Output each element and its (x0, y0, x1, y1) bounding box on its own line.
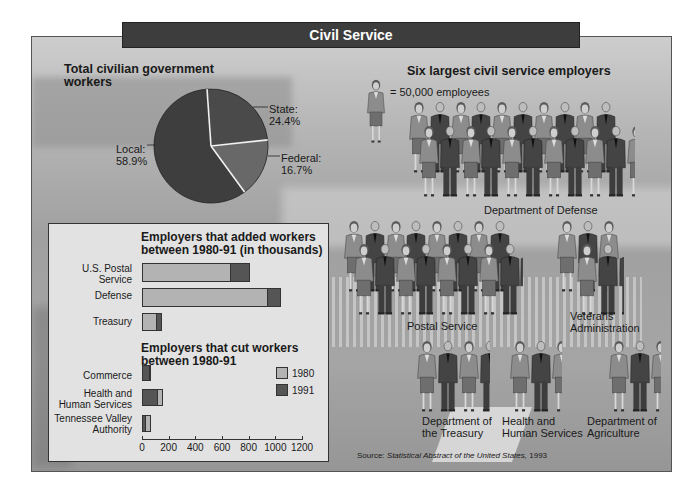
man-figure-icon (530, 340, 552, 412)
woman-figure-icon (395, 243, 417, 315)
man-figure-icon (629, 340, 651, 412)
legend-label-1991: 1991 (292, 385, 314, 396)
tva-bar-inner (142, 415, 146, 432)
treasury-label-line1: Department of (422, 415, 492, 427)
woman-figure-icon (543, 125, 565, 197)
man-figure-icon (437, 340, 459, 412)
usps-label-line1: U.S. Postal (52, 263, 132, 274)
group-label-defense: Department of Defense (484, 204, 598, 216)
agriculture-label-line1: Department of (587, 415, 657, 427)
x-tick-label: 600 (214, 442, 231, 453)
category-label-defense: Defense (52, 290, 132, 301)
x-tick (142, 436, 143, 440)
hhs-label-line1: Health and (502, 415, 583, 427)
man-figure-icon (597, 243, 619, 315)
treasury-bar-inner (142, 313, 157, 331)
x-tick-label: 400 (187, 442, 204, 453)
source-year: 1993 (527, 451, 547, 460)
man-figure-icon (457, 243, 479, 315)
man-figure-icon (415, 243, 437, 315)
commerce-bar-label: Commerce (52, 370, 132, 381)
veterans-label-line2: Administration (570, 322, 640, 334)
woman-figure-icon (626, 125, 635, 197)
group-label-postal: Postal Service (407, 320, 477, 332)
man-figure-icon (480, 125, 502, 197)
man-figure-icon (564, 125, 586, 197)
woman-figure-icon (650, 340, 661, 412)
hhs-label-line2: Human Services (502, 427, 583, 439)
man-figure-icon (439, 125, 461, 197)
man-figure-icon (605, 125, 627, 197)
woman-figure-icon (478, 243, 500, 315)
hhs-bar-label-line2: Human Services (52, 399, 132, 410)
man-figure-icon (519, 243, 523, 315)
defense-label: Department of Defense (484, 204, 598, 216)
group-label-hhs: Health and Human Services (502, 415, 583, 439)
hhs-bar-label-line1: Health and (52, 388, 132, 399)
tva-bar-label-line2: Authority (52, 424, 132, 435)
added-workers-title: Employers that added workers between 198… (141, 231, 322, 256)
man-figure-icon (479, 340, 490, 412)
woman-figure-icon (436, 243, 458, 315)
cut-workers-title: Employers that cut workers between 1980-… (141, 342, 298, 367)
commerce-bar-inner (142, 365, 150, 381)
man-figure-icon (374, 243, 396, 315)
woman-figure-icon (556, 220, 578, 292)
legend-swatch-1980 (276, 367, 288, 379)
x-tick (249, 436, 250, 440)
defense-bar-label: Defense (52, 290, 132, 301)
group-label-treasury: Department of the Treasury (422, 415, 492, 439)
legend-label-1980: 1980 (292, 368, 314, 379)
x-tick-label: 0 (139, 442, 145, 453)
treasury-bar-label: Treasury (52, 316, 132, 327)
x-tick (169, 436, 170, 440)
veterans-label-line1: Veterans (570, 310, 640, 322)
woman-figure-icon (501, 125, 523, 197)
woman-figure-icon (509, 340, 531, 412)
x-tick-label: 1200 (291, 442, 313, 453)
group-label-agriculture: Department of Agriculture (587, 415, 657, 439)
woman-figure-icon (418, 125, 440, 197)
x-tick-label: 800 (240, 442, 257, 453)
woman-figure-icon (458, 340, 480, 412)
woman-figure-icon (460, 125, 482, 197)
man-figure-icon (618, 243, 624, 315)
category-label-usps: U.S. Postal Service (52, 263, 132, 285)
woman-figure-icon (551, 340, 562, 412)
category-label-treasury: Treasury (52, 316, 132, 327)
source-work: Statistical Abstract of the United State… (387, 451, 527, 460)
tva-bar-label-line1: Tennessee Valley (52, 413, 132, 424)
usps-bar-inner (142, 263, 231, 282)
group-label-veterans: Veterans Administration (570, 310, 640, 334)
x-tick (195, 436, 196, 440)
pictograph-legend-text: = 50,000 employees (390, 86, 489, 98)
employers-title: Six largest civil service employers (407, 64, 611, 78)
defense-bar-inner (142, 288, 268, 307)
woman-figure-icon (608, 340, 630, 412)
x-tick-label: 200 (160, 442, 177, 453)
legend-swatch-1991 (276, 384, 288, 396)
treasury-label-line2: the Treasury (422, 427, 492, 439)
source-note: Source: Statistical Abstract of the Unit… (357, 451, 547, 460)
woman-figure-icon (353, 243, 375, 315)
man-figure-icon (522, 125, 544, 197)
man-figure-icon (499, 243, 521, 315)
cut-title-line1: Employers that cut workers (141, 342, 298, 355)
woman-figure-icon (576, 243, 598, 315)
source-prefix: Source: (357, 451, 387, 460)
added-title-line1: Employers that added workers (141, 231, 322, 244)
x-tick (222, 436, 223, 440)
agriculture-label-line2: Agriculture (587, 427, 657, 439)
postal-label: Postal Service (407, 320, 477, 332)
category-label-commerce: Commerce (52, 370, 132, 381)
cut-title-line2: between 1980-91 (141, 355, 298, 368)
category-label-tva: Tennessee Valley Authority (52, 413, 132, 435)
woman-figure-icon (416, 340, 438, 412)
x-tick-label: 1000 (264, 442, 286, 453)
usps-label-line2: Service (52, 274, 132, 285)
hhs-bar-inner (142, 389, 158, 406)
added-title-line2: between 1980-91 (in thousands) (141, 244, 322, 257)
woman-figure-icon (584, 125, 606, 197)
x-tick (275, 436, 276, 440)
x-tick (302, 436, 303, 440)
